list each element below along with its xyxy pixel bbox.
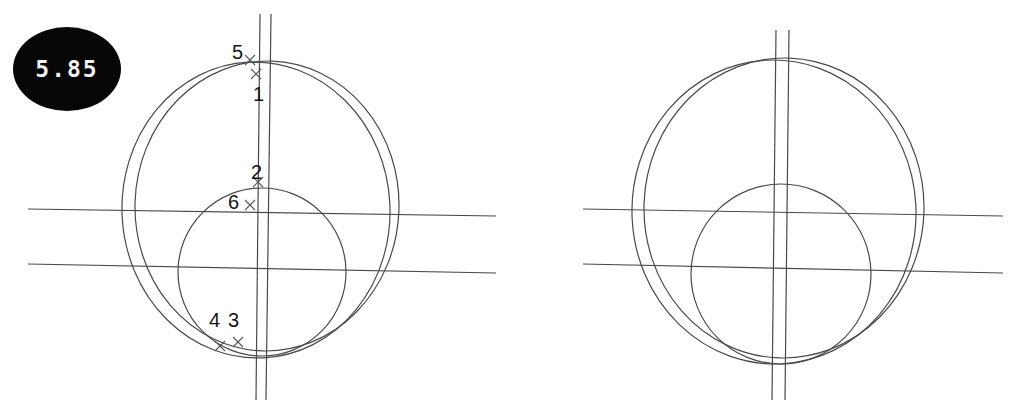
horizontal-line-2	[28, 264, 496, 273]
point-label-1: 1	[253, 84, 264, 104]
horizontal-line-1	[28, 209, 496, 216]
diagram-panel-right: 5.86	[506, 0, 1011, 409]
point-label-2: 2	[251, 162, 262, 182]
badge-left-label: 5.85	[35, 58, 98, 81]
point-label-3: 3	[228, 310, 239, 330]
point-label-5: 5	[232, 42, 243, 62]
vertical-line-2	[785, 30, 789, 400]
point-label-4: 4	[209, 310, 220, 330]
badge-left: 5.85	[13, 27, 121, 111]
point-label-6: 6	[228, 192, 239, 212]
outer-circle-b	[639, 53, 929, 363]
horizontal-line-2	[583, 264, 1003, 273]
vertical-line-2	[266, 14, 271, 400]
diagram-panel-left: 5.85 512643	[0, 0, 505, 409]
horizontal-line-1	[583, 209, 1003, 216]
marker-3	[233, 337, 243, 347]
screenshot-canvas: 5.85 512643 5.86	[0, 0, 1011, 409]
diagram-drawing-right	[506, 0, 1011, 409]
marker-6	[245, 200, 255, 210]
vertical-line-1	[772, 30, 776, 400]
marker-5	[245, 55, 255, 65]
